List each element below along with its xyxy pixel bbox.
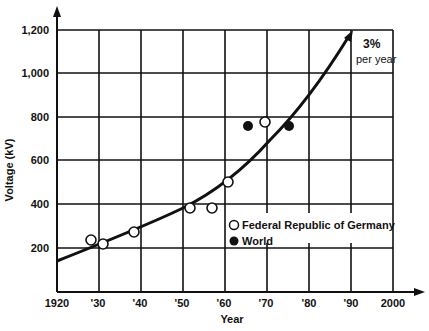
data-point — [243, 121, 253, 131]
svg-text:'80: '80 — [302, 297, 317, 309]
data-point — [185, 203, 195, 213]
legend-filled-circle-icon — [230, 237, 239, 246]
svg-text:'40: '40 — [133, 297, 148, 309]
y-axis-label: Voltage (kV) — [3, 138, 15, 201]
svg-text:600: 600 — [31, 154, 49, 166]
svg-text:1,200: 1,200 — [21, 24, 49, 36]
annotation-per-year: per year — [356, 53, 397, 65]
y-axis-arrow-icon — [53, 6, 61, 17]
svg-text:400: 400 — [31, 198, 49, 210]
legend-open-circle-icon — [230, 221, 239, 230]
legend-frg-label: Federal Republic of Germany — [242, 219, 396, 231]
svg-text:800: 800 — [31, 111, 49, 123]
data-point — [86, 235, 96, 245]
svg-text:200: 200 — [31, 242, 49, 254]
data-point — [129, 227, 139, 237]
svg-text:'90: '90 — [344, 297, 359, 309]
data-point — [260, 117, 270, 127]
svg-text:1,000: 1,000 — [21, 67, 49, 79]
data-point — [223, 177, 233, 187]
x-tick-labels: 1920 '30 '40 '50 '60 '70 '80 '90 2000 — [45, 297, 405, 309]
svg-text:'60: '60 — [217, 297, 232, 309]
grid-vertical — [99, 30, 393, 292]
svg-text:'50: '50 — [175, 297, 190, 309]
svg-text:2000: 2000 — [381, 297, 405, 309]
voltage-growth-chart: Federal Republic of Germany World 3% per… — [0, 0, 429, 331]
data-point — [207, 203, 217, 213]
x-axis-label: Year — [220, 313, 244, 325]
svg-text:1920: 1920 — [45, 297, 69, 309]
x-axis-arrow-icon — [414, 288, 425, 296]
annotation-rate: 3% — [363, 37, 381, 51]
data-point — [98, 239, 108, 249]
data-point — [284, 121, 294, 131]
y-tick-labels: 200 400 600 800 1,000 1,200 — [21, 24, 49, 254]
legend-world-label: World — [242, 235, 273, 247]
svg-text:'70: '70 — [259, 297, 274, 309]
svg-text:'30: '30 — [91, 297, 106, 309]
